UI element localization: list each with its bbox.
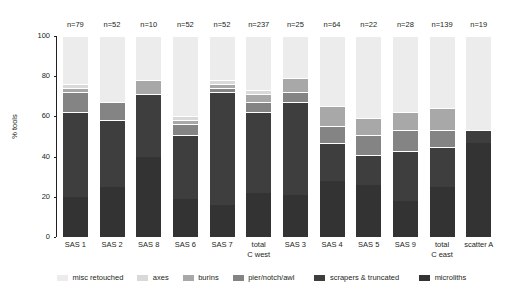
bar-segment	[283, 195, 308, 237]
bar-segment	[356, 135, 381, 155]
bar-segment	[210, 92, 235, 205]
x-tick-label: SAS 4	[314, 240, 351, 264]
stacked-bar	[100, 36, 125, 237]
y-tick-mark-0	[54, 237, 57, 238]
bar-segment	[63, 112, 88, 196]
bar-segment	[210, 36, 235, 80]
bar-segment	[136, 36, 161, 80]
bar-count-label: n=52	[204, 20, 241, 33]
x-tick-label: SAS 7	[204, 240, 241, 264]
bar-segment	[430, 36, 455, 108]
bar-count-label: n=25	[277, 20, 314, 33]
legend-item: microliths	[419, 274, 466, 282]
bar-count-label: n=64	[314, 20, 351, 33]
y-axis-title: % tools	[10, 97, 19, 157]
stacked-bar	[246, 36, 271, 237]
bar-segment	[430, 147, 455, 187]
x-tick-label: total C west	[240, 240, 277, 264]
bar-segment	[393, 201, 418, 237]
x-tick-label: total C east	[424, 240, 461, 264]
y-tick-20: 20	[24, 193, 50, 201]
stacked-bar	[173, 36, 198, 237]
bar-segment	[246, 193, 271, 237]
bar-segment	[466, 36, 491, 130]
stacked-bar	[283, 36, 308, 237]
x-tick-label: SAS 3	[277, 240, 314, 264]
bar-segment	[320, 126, 345, 142]
bar-segment	[173, 124, 198, 134]
bar-segment	[246, 112, 271, 192]
y-tick-100: 100	[24, 32, 50, 40]
legend-label: misc retouched	[73, 274, 124, 282]
legend-label: burins	[198, 274, 218, 282]
bar-count-label: n=19	[460, 20, 497, 33]
x-tick-label: SAS 8	[130, 240, 167, 264]
y-tick-40: 40	[24, 153, 50, 161]
bar-segment	[356, 36, 381, 118]
bar-segment	[136, 80, 161, 94]
legend-swatch-icon	[419, 275, 430, 281]
bar-segment	[393, 130, 418, 150]
legend-label: pier/notch/awl	[248, 274, 294, 282]
legend-label: microliths	[435, 274, 467, 282]
legend-item: burins	[183, 274, 219, 282]
bar-segment	[466, 143, 491, 237]
bar-segment	[393, 112, 418, 130]
bar-column	[130, 36, 167, 237]
bar-segment	[356, 118, 381, 134]
bar-count-label: n=52	[94, 20, 131, 33]
x-tick-label: SAS 5	[350, 240, 387, 264]
bar-segment	[320, 36, 345, 106]
bar-segment	[173, 36, 198, 116]
stacked-bars	[57, 36, 497, 237]
legend-label: axes	[153, 274, 169, 282]
bar-count-label: n=139	[424, 20, 461, 33]
chart-figure: % tools 020406080100 n=79n=52n=10n=52n=5…	[0, 0, 516, 297]
bar-segment	[283, 78, 308, 92]
bar-column	[277, 36, 314, 237]
legend-swatch-icon	[137, 275, 148, 281]
stacked-bar	[356, 36, 381, 237]
y-tick-80: 80	[24, 72, 50, 80]
stacked-bar	[63, 36, 88, 237]
bar-segment	[320, 181, 345, 237]
bar-column	[167, 36, 204, 237]
bar-column	[424, 36, 461, 237]
y-tick-60: 60	[24, 112, 50, 120]
bar-segment	[136, 157, 161, 237]
bar-segment	[100, 187, 125, 237]
bar-segment	[283, 36, 308, 78]
bar-segment	[100, 102, 125, 120]
bar-column	[314, 36, 351, 237]
x-tick-label: scatter A	[460, 240, 497, 264]
bar-column	[57, 36, 94, 237]
bar-segment	[246, 102, 271, 112]
bar-segment	[320, 143, 345, 181]
x-tick-label: SAS 6	[167, 240, 204, 264]
bar-count-label: n=79	[57, 20, 94, 33]
legend-swatch-icon	[183, 275, 194, 281]
bar-count-labels: n=79n=52n=10n=52n=52n=237n=25n=64n=22n=2…	[57, 20, 497, 33]
bar-column	[94, 36, 131, 237]
stacked-bar	[466, 36, 491, 237]
bar-count-label: n=237	[240, 20, 277, 33]
bar-segment	[320, 106, 345, 126]
bar-segment	[430, 187, 455, 237]
legend-item: misc retouched	[57, 274, 123, 282]
legend-item: axes	[137, 274, 168, 282]
bar-segment	[63, 36, 88, 84]
stacked-bar	[430, 36, 455, 237]
bar-segment	[63, 197, 88, 237]
bar-segment	[246, 94, 271, 102]
bar-segment	[393, 151, 418, 201]
legend-swatch-icon	[233, 275, 244, 281]
x-tick-label: SAS 2	[94, 240, 131, 264]
x-axis-tick-labels: SAS 1SAS 2SAS 8SAS 6SAS 7total C westSAS…	[57, 240, 497, 264]
bar-count-label: n=28	[387, 20, 424, 33]
bar-segment	[283, 102, 308, 194]
bar-segment	[100, 36, 125, 102]
bar-column	[350, 36, 387, 237]
bar-segment	[283, 92, 308, 102]
x-tick-label: SAS 1	[57, 240, 94, 264]
bar-segment	[393, 36, 418, 112]
